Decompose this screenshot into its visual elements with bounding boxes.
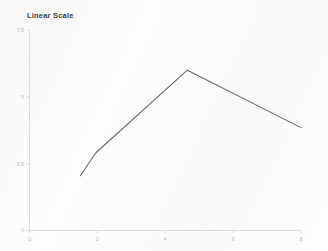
y-tick-label-0: 0 [21,227,24,233]
x-tick-labels: 0 2 4 6 8 [28,236,303,242]
x-tick-label-3: 6 [232,236,235,242]
y-tick-labels: 0 2.5 5 7.5 [17,27,24,233]
plot-area: 0 2.5 5 7.5 0 2 4 6 8 [0,0,328,251]
x-tick-label-0: 0 [28,236,31,242]
y-tick-label-1: 2.5 [17,161,24,167]
data-series-line [80,70,301,176]
y-tick-marks [27,30,30,230]
chart-figure: Linear Scale 0 2.5 5 7.5 [0,0,328,251]
y-tick-label-3: 7.5 [17,27,24,33]
x-tick-label-1: 2 [96,236,99,242]
x-tick-marks [30,231,302,234]
y-tick-label-2: 5 [21,94,24,100]
x-tick-label-4: 8 [300,236,303,242]
x-tick-label-2: 4 [164,236,167,242]
